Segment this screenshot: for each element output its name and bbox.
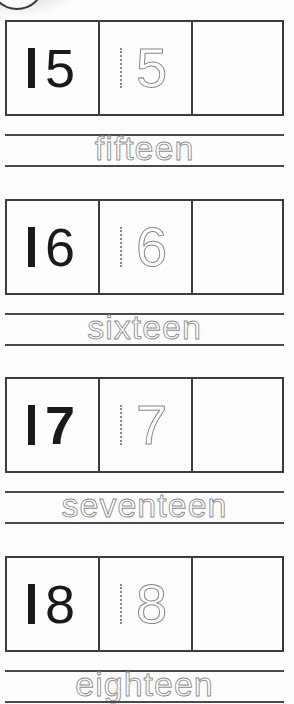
dotted-trace-word: seventeen [5,487,284,523]
writing-guide-bottom-line [5,165,284,167]
writing-guide-bottom-line [5,701,284,703]
solid-number: 7 [28,398,77,452]
solid-number: 5 [28,41,77,95]
trace-number-cell: 8 [100,558,193,650]
dotted-trace-word: eighteen [5,666,284,702]
digit-one-bar [28,584,35,624]
dotted-trace-number: 6 [120,219,171,275]
number-boxes: 7 7 [5,377,284,473]
trace-number-cell: 5 [100,22,193,114]
solid-number-cell: 6 [7,201,100,293]
digit-one-bar [28,405,35,445]
answer-box[interactable] [193,22,282,114]
answer-box[interactable] [193,201,282,293]
number-boxes: 5 5 [5,20,284,116]
solid-number: 6 [28,220,77,274]
number-boxes: 8 8 [5,556,284,652]
dotted-trace-word: sixteen [5,309,284,345]
dotted-trace-number: 8 [120,576,171,632]
answer-box[interactable] [193,379,282,471]
trace-number-cell: 6 [100,201,193,293]
dotted-digit-one [120,227,122,267]
writing-guide-bottom-line [5,344,284,346]
trace-number-cell: 7 [100,379,193,471]
answer-box[interactable] [193,558,282,650]
writing-guide-bottom-line [5,522,284,524]
digit-one-bar [28,48,35,88]
dotted-digit-one [120,48,122,88]
dotted-trace-number: 5 [120,40,171,96]
dotted-digit-one [120,405,122,445]
solid-number-cell: 8 [7,558,100,650]
solid-number-cell: 5 [7,22,100,114]
solid-number: 8 [28,577,77,631]
dotted-digit-one [120,584,122,624]
dotted-trace-word: fifteen [5,130,284,166]
number-boxes: 6 6 [5,199,284,295]
solid-number-cell: 7 [7,379,100,471]
digit-one-bar [28,227,35,267]
dotted-trace-number: 7 [120,397,171,453]
